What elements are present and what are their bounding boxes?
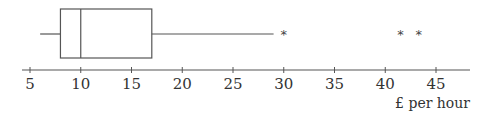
interquartile-box [60, 9, 151, 58]
x-tick-label: 20 [173, 75, 192, 93]
x-tick-label: 30 [274, 75, 293, 93]
x-axis-title: £ per hour [395, 95, 470, 111]
box-and-whisker [40, 9, 273, 58]
x-tick-label: 15 [122, 75, 141, 93]
outlier-markers: *** [281, 27, 423, 42]
x-tick-label: 45 [426, 75, 445, 93]
x-tick-label: 25 [223, 75, 242, 93]
outlier-marker: * [281, 27, 288, 42]
x-tick-label: 5 [25, 75, 35, 93]
x-tick-label: 35 [325, 75, 344, 93]
x-tick-label: 40 [376, 75, 395, 93]
box-plot-chart: *** 51015202530354045 £ per hour [0, 0, 493, 115]
x-axis: 51015202530354045 [22, 67, 470, 93]
outlier-marker: * [397, 27, 404, 42]
outlier-marker: * [415, 27, 422, 42]
x-tick-label: 10 [71, 75, 90, 93]
